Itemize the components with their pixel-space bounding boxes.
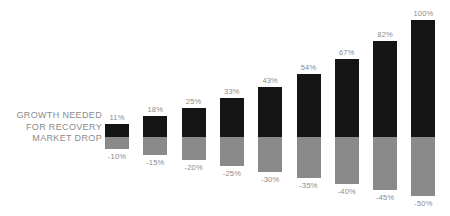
legend-label-market-drop: MARKET DROP xyxy=(14,133,102,145)
bar-drop-label: -25% xyxy=(223,169,241,178)
bar-group: 54%-35% xyxy=(297,0,321,216)
bar-growth-label: 82% xyxy=(377,30,393,39)
bar-drop-label: -50% xyxy=(414,199,432,208)
bar-group: 67%-40% xyxy=(335,0,359,216)
bar-group: 25%-20% xyxy=(182,0,206,216)
bar-drop-label: -15% xyxy=(146,158,164,167)
bar-growth-label: 54% xyxy=(301,63,317,72)
chart-legend: GROWTH NEEDED FOR RECOVERY MARKET DROP xyxy=(14,110,102,145)
bar-group: 82%-45% xyxy=(373,0,397,216)
bar-growth-label: 11% xyxy=(109,113,124,122)
bar-segment-drop xyxy=(220,137,244,166)
bar-segment-drop xyxy=(297,137,321,178)
bar-segment-growth xyxy=(335,59,359,137)
bar-drop-label: -20% xyxy=(184,163,202,172)
plot-area: 11%-10%18%-15%25%-20%33%-25%43%-30%54%-3… xyxy=(105,0,450,216)
bar-group: 33%-25% xyxy=(220,0,244,216)
bar-segment-drop xyxy=(143,137,167,155)
bar-segment-drop xyxy=(411,137,435,196)
bar-segment-growth xyxy=(220,98,244,137)
recovery-growth-chart: GROWTH NEEDED FOR RECOVERY MARKET DROP 1… xyxy=(0,0,450,216)
bar-segment-growth xyxy=(297,74,321,137)
legend-label-for-recovery: FOR RECOVERY xyxy=(14,122,102,134)
bar-segment-drop xyxy=(105,137,129,149)
bar-drop-label: -10% xyxy=(108,152,126,161)
bar-drop-label: -30% xyxy=(261,175,279,184)
bar-group: 100%-50% xyxy=(411,0,435,216)
bar-growth-label: 25% xyxy=(186,97,202,106)
bar-growth-label: 18% xyxy=(147,105,163,114)
bar-segment-drop xyxy=(373,137,397,190)
bar-growth-label: 100% xyxy=(413,9,433,18)
bar-growth-label: 43% xyxy=(262,76,278,85)
bar-drop-label: -45% xyxy=(376,193,394,202)
bar-segment-drop xyxy=(258,137,282,172)
bar-segment-growth xyxy=(182,108,206,137)
bar-group: 11%-10% xyxy=(105,0,129,216)
bar-segment-drop xyxy=(335,137,359,184)
bar-group: 43%-30% xyxy=(258,0,282,216)
bar-segment-growth xyxy=(143,116,167,137)
bar-growth-label: 67% xyxy=(339,48,355,57)
bar-drop-label: -40% xyxy=(338,187,356,196)
bar-segment-growth xyxy=(258,87,282,137)
legend-label-growth-needed: GROWTH NEEDED xyxy=(14,110,102,122)
bar-segment-growth xyxy=(373,41,397,137)
bar-drop-label: -35% xyxy=(299,181,317,190)
bar-segment-drop xyxy=(182,137,206,160)
bar-growth-label: 33% xyxy=(224,87,240,96)
bar-group: 18%-15% xyxy=(143,0,167,216)
bar-segment-growth xyxy=(105,124,129,137)
bar-segment-growth xyxy=(411,20,435,137)
